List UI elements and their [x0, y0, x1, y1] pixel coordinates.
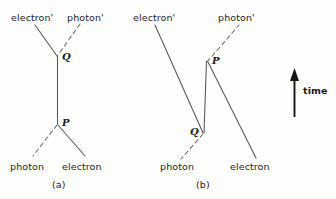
diagram-b-electron-propagator-line: [204, 61, 207, 133]
time-arrow-head: [290, 68, 299, 81]
diagram-b-caption: (b): [196, 180, 210, 190]
diagram-a-electron-out-line: [35, 25, 57, 56]
diagram-b-vertex-p-label: P: [212, 56, 220, 66]
diagram-a-vertex-p-label: P: [62, 118, 70, 128]
diagram-a-electron-in-line: [58, 125, 85, 156]
diagram-b-electron-out-line: [155, 25, 203, 133]
diagram-a-photon-in-line: [33, 125, 57, 156]
diagram-b-vertex-q-label: Q: [190, 127, 199, 137]
diagram-a-photon-out-label: photon': [67, 13, 104, 23]
diagram-b: [155, 25, 256, 159]
time-axis-label: time: [303, 86, 328, 96]
diagram-a: [33, 24, 85, 156]
diagram-a-photon-in-label: photon: [10, 162, 44, 172]
diagram-b-electron-in-line: [208, 62, 256, 158]
diagram-b-photon-out-label: photon': [218, 13, 255, 23]
diagram-a-vertex-q-label: Q: [62, 52, 71, 62]
diagram-b-electron-out-label: electron': [133, 13, 175, 23]
diagram-b-electron-in-label: electron: [230, 162, 270, 172]
diagram-b-photon-in-label: photon: [160, 162, 194, 172]
diagram-a-electron-in-label: electron: [62, 162, 102, 172]
diagram-a-caption: (a): [52, 180, 66, 190]
diagram-a-electron-out-label: electron': [11, 13, 53, 23]
time-arrow-icon: [290, 68, 299, 117]
feynman-diagram-figure: electron' photon' Q P photon electron (a…: [0, 0, 336, 199]
diagram-b-photon-in-line: [181, 134, 203, 159]
